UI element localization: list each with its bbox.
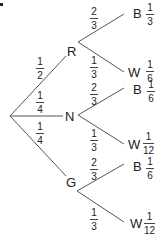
outcome-g-w: W bbox=[130, 217, 142, 230]
prob-r-b: 23 bbox=[90, 7, 98, 31]
prob-g-w: 13 bbox=[90, 208, 98, 232]
prob-g-b: 23 bbox=[90, 158, 98, 182]
joint-g-b: 16 bbox=[146, 157, 154, 181]
prob-r: 12 bbox=[36, 57, 44, 81]
node-g: G bbox=[66, 176, 76, 189]
joint-g-w: 112 bbox=[144, 212, 155, 236]
prob-r-w: 13 bbox=[90, 56, 98, 80]
branch-g-w bbox=[77, 191, 124, 222]
prob-n-w: 13 bbox=[90, 129, 98, 153]
branch-g-b bbox=[77, 164, 124, 191]
prob-n-b: 23 bbox=[90, 83, 98, 107]
outcome-n-b: B bbox=[133, 83, 142, 96]
joint-n-b: 16 bbox=[147, 80, 155, 104]
outcome-r-b: B bbox=[133, 7, 142, 20]
prob-g: 14 bbox=[36, 122, 44, 146]
tree-lines bbox=[0, 0, 164, 241]
outcome-g-b: B bbox=[133, 160, 142, 173]
outcome-n-w: W bbox=[128, 138, 140, 151]
prob-n: 14 bbox=[36, 91, 44, 115]
branch-r-w bbox=[78, 42, 124, 72]
node-r: R bbox=[67, 45, 76, 58]
branch-n-b bbox=[78, 88, 124, 115]
branch-n-w bbox=[78, 115, 124, 144]
outcome-r-w: W bbox=[128, 66, 140, 79]
node-n: N bbox=[65, 110, 74, 123]
joint-r-b: 13 bbox=[146, 3, 154, 27]
branch-r-b bbox=[78, 14, 124, 42]
joint-n-w: 112 bbox=[143, 132, 154, 156]
